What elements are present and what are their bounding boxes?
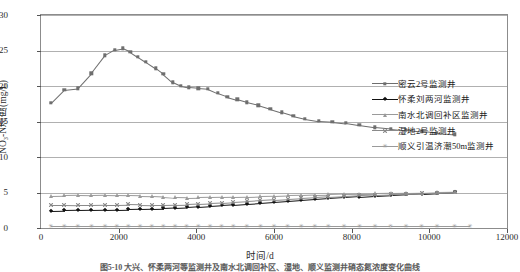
x-tick-mark-10000 bbox=[429, 229, 430, 233]
legend-label: 怀柔刘两河监测井 bbox=[398, 94, 470, 104]
legend-label: 南水北调回补区监测井 bbox=[398, 110, 488, 120]
legend-item-1[interactable]: 怀柔刘两河监测井 bbox=[372, 92, 520, 108]
legend-label: 顺义引温济潮50m监测井 bbox=[398, 141, 494, 151]
legend-label: 湿地2号监测井 bbox=[398, 126, 456, 136]
x-tick-label-8000: 8000 bbox=[343, 233, 361, 242]
x-tick-label-4000: 4000 bbox=[187, 233, 205, 242]
legend-marker-star-icon: ✳ bbox=[372, 141, 398, 151]
x-tick-label-6000: 6000 bbox=[265, 233, 283, 242]
x-tick-label-12000: 12000 bbox=[496, 233, 519, 242]
legend-item-2[interactable]: 南水北调回补区监测井 bbox=[372, 107, 520, 123]
x-tick-mark-8000 bbox=[352, 229, 353, 233]
y-tick-mark-0 bbox=[37, 228, 41, 229]
y-tick-label-20: 20 bbox=[0, 82, 8, 91]
y-tick-label-15: 15 bbox=[0, 117, 8, 126]
y-tick-label-10: 10 bbox=[0, 153, 8, 162]
y-tick-mark-30 bbox=[37, 15, 41, 16]
legend-item-3[interactable]: 湿地2号监测井 bbox=[372, 123, 520, 139]
x-tick-mark-12000 bbox=[507, 229, 508, 233]
y-tick-label-30: 30 bbox=[0, 11, 8, 20]
y-tick-label-25: 25 bbox=[0, 46, 8, 55]
y-tick-mark-5 bbox=[37, 193, 41, 194]
y-tick-mark-25 bbox=[37, 51, 41, 52]
legend-item-0[interactable]: 密云2号监测井 bbox=[372, 76, 520, 92]
chart-legend: 密云2号监测井怀柔刘两河监测井南水北调回补区监测井湿地2号监测井✳顺义引温济潮5… bbox=[372, 76, 520, 154]
x-tick-mark-6000 bbox=[274, 229, 275, 233]
y-tick-label-0: 0 bbox=[0, 224, 8, 233]
y-tick-mark-20 bbox=[37, 86, 41, 87]
x-axis-label: 时间/d bbox=[0, 248, 520, 262]
y-tick-mark-15 bbox=[37, 122, 41, 123]
legend-marker-x-icon bbox=[372, 126, 398, 136]
legend-marker-triangle-icon bbox=[372, 110, 398, 120]
legend-marker-diamond-icon bbox=[372, 94, 398, 104]
figure-caption: 图5-10 大兴、怀柔两河等监测井及南水北调回补区、湿地、顺义监测井硝态氮浓度变… bbox=[0, 263, 520, 272]
legend-item-4[interactable]: ✳顺义引温济潮50m监测井 bbox=[372, 138, 520, 154]
x-tick-label-2000: 2000 bbox=[110, 233, 128, 242]
x-tick-mark-2000 bbox=[119, 229, 120, 233]
y-tick-label-5: 5 bbox=[0, 188, 8, 197]
legend-marker-square-icon bbox=[372, 79, 398, 89]
x-tick-mark-4000 bbox=[196, 229, 197, 233]
x-tick-label-10000: 10000 bbox=[418, 233, 441, 242]
legend-label: 密云2号监测井 bbox=[398, 79, 456, 89]
y-tick-mark-10 bbox=[37, 157, 41, 158]
chart-figure: NO₃-N浓度(mg/L) ✳✳✳✳✳✳✳✳✳✳✳✳✳✳✳✳✳✳✳✳✳✳✳✳✳✳… bbox=[0, 0, 520, 272]
x-tick-label-0: 0 bbox=[39, 233, 44, 242]
